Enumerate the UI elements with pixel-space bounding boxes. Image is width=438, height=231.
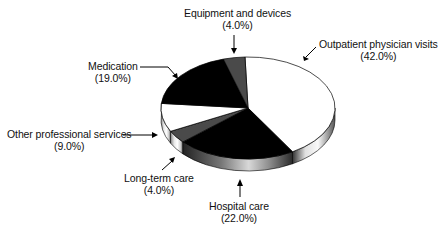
label-longterm-pct: (4.0%) (124, 184, 194, 196)
label-outpatient-pct: (42.0%) (319, 50, 438, 62)
label-other: Other professional services (9.0%) (7, 128, 132, 152)
label-hospital-name: Hospital care (209, 200, 269, 212)
label-other-name: Other professional services (7, 128, 132, 140)
label-outpatient-name: Outpatient physician visits (319, 38, 438, 50)
label-longterm-name: Long-term care (124, 172, 194, 184)
label-equipment-pct: (4.0%) (184, 19, 291, 31)
label-outpatient: Outpatient physician visits (42.0%) (319, 38, 438, 62)
label-hospital-pct: (22.0%) (209, 212, 269, 224)
label-hospital: Hospital care (22.0%) (209, 200, 269, 224)
label-equipment-name: Equipment and devices (184, 7, 291, 19)
arrow-medication (140, 67, 176, 76)
label-other-pct: (9.0%) (7, 140, 132, 152)
arrow-longterm (162, 161, 172, 170)
label-medication: Medication (19.0%) (88, 60, 138, 84)
label-medication-name: Medication (88, 60, 138, 72)
pie-top-face (161, 57, 335, 159)
label-equipment: Equipment and devices (4.0%) (184, 7, 291, 31)
arrow-outpatient (306, 47, 316, 57)
label-longterm: Long-term care (4.0%) (124, 172, 194, 196)
label-medication-pct: (19.0%) (88, 72, 138, 84)
